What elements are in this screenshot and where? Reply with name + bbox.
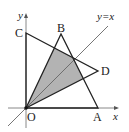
label-C: C [15,26,23,40]
y-axis-label: y [17,9,23,21]
label-B: B [57,21,65,35]
label-D: D [101,64,110,78]
label-A: A [93,110,102,124]
label-O: O [27,110,36,124]
line-label-y-equals-x: y=x [96,10,114,22]
y-axis-arrow-icon [24,13,28,18]
x-axis-label: x [112,110,118,122]
geometry-diagram: O A B C D x y y=x [0,0,129,132]
